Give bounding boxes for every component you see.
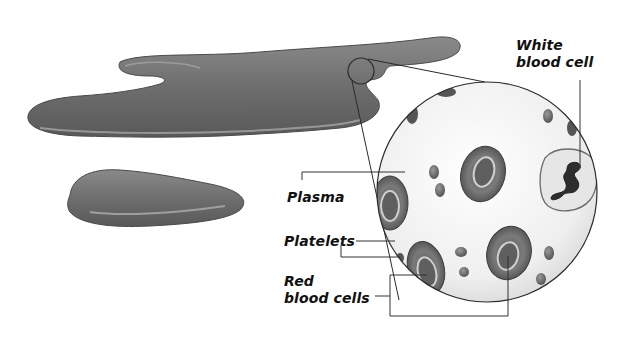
white-blood-cell — [540, 149, 597, 211]
label-red-blood-cells-line1: Red — [284, 273, 370, 290]
label-white-blood-cell-line1: White — [516, 37, 593, 54]
label-white-blood-cell-line2: blood cell — [516, 54, 593, 71]
label-red-blood-cells: Red blood cells — [284, 273, 370, 307]
blood-puddle-large — [28, 37, 460, 137]
label-plasma: Plasma — [287, 189, 344, 206]
magnified-blood-view — [372, 82, 597, 302]
label-white-blood-cell: White blood cell — [516, 37, 593, 71]
label-red-blood-cells-line2: blood cells — [284, 290, 370, 307]
blood-puddle-small — [68, 170, 244, 227]
label-platelets: Platelets — [284, 233, 355, 250]
